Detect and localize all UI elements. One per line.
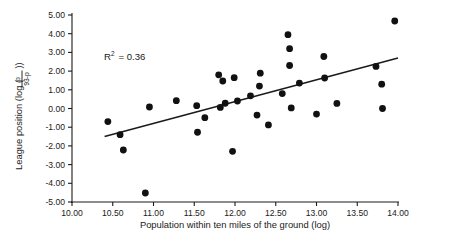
data-point [286,45,293,52]
data-point [333,100,340,107]
y-tick-label: -3.00 [45,160,65,170]
y-tick-label: -4.00 [45,178,65,188]
data-point [254,112,261,119]
data-point [104,118,111,125]
x-tick-label: 14.00 [387,208,409,218]
data-point [120,147,127,154]
y-tick-label: 5.00 [48,10,65,20]
data-point [321,75,328,82]
data-point [142,190,149,197]
data-point [247,92,254,99]
y-axis-title-prefix: League position (log ( [13,79,24,170]
data-point [193,102,200,109]
data-point [279,90,286,97]
x-tick-label: 13.50 [346,208,368,218]
data-point [117,131,124,138]
data-point [229,148,236,155]
data-point [173,97,180,104]
data-point [265,122,272,129]
data-point [194,129,201,136]
y-tick-label: 1.00 [48,85,65,95]
scatter-plot-figure: 5.004.003.002.001.000.00-1.00-2.00-3.00-… [0,0,463,248]
data-point [234,98,241,105]
y-axis-ticks: 5.004.003.002.001.000.00-1.00-2.00-3.00-… [45,10,72,207]
data-point [231,74,238,81]
y-axis-title-suffix: )) [13,62,24,68]
x-tick-label: 10.50 [102,208,124,218]
fraction-numerator: p [14,77,22,81]
y-tick-label: 0.00 [48,104,65,114]
data-points-group [104,18,398,197]
svg-text:R2= 0.36: R2= 0.36 [104,50,145,62]
plot-canvas: 5.004.003.002.001.000.00-1.00-2.00-3.00-… [0,0,463,248]
r-squared-value: = 0.36 [119,51,146,62]
r-squared-symbol: R [104,51,111,62]
x-tick-label: 10.00 [61,208,83,218]
fraction-denominator: 93-p [23,72,31,86]
y-tick-label: 3.00 [48,47,65,57]
y-tick-label: -5.00 [45,197,65,207]
data-point [219,78,226,85]
y-tick-label: -1.00 [45,122,65,132]
data-point [215,71,222,78]
data-point [373,63,380,70]
y-axis-title-group: League position (log ( p 93-p )) [13,62,31,170]
data-point [296,80,303,87]
data-point [286,62,293,69]
data-point [222,100,229,107]
x-axis-title: Population within ten miles of the groun… [140,219,330,230]
data-point [379,105,386,112]
data-point [285,31,292,38]
data-point [391,18,398,25]
y-tick-label: 2.00 [48,66,65,76]
data-point [320,53,327,60]
data-point [288,105,295,112]
r-squared-annotation: R2= 0.36 [104,50,145,62]
axes-group [72,14,399,203]
x-axis-ticks: 10.0010.5011.0011.5012.0012.5013.0013.50… [61,202,409,218]
x-tick-label: 11.00 [143,208,164,218]
data-point [201,114,208,121]
x-tick-label: 13.00 [306,208,328,218]
data-point [256,83,263,90]
data-point [378,81,385,88]
x-tick-label: 11.50 [184,208,205,218]
x-tick-label: 12.00 [224,208,246,218]
data-point [313,111,320,118]
data-point [257,70,264,77]
data-point [146,104,153,111]
y-tick-label: -2.00 [45,141,65,151]
r-squared-exponent: 2 [111,50,115,57]
y-tick-label: 4.00 [48,29,65,39]
x-tick-label: 12.50 [265,208,287,218]
